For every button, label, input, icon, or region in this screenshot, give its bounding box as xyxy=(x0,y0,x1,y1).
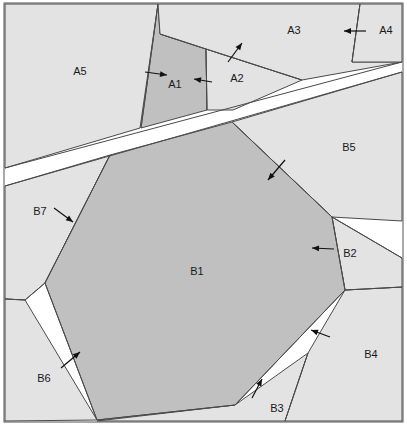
region-label-b7: B7 xyxy=(33,205,46,217)
region-label-a1: A1 xyxy=(168,78,181,90)
region-label-a5: A5 xyxy=(73,65,86,77)
region-label-a2: A2 xyxy=(230,72,243,84)
region-label-b4: B4 xyxy=(364,348,377,360)
polygon-partition-diagram: A5A1A2A3A4B5B7B6B3B4B2B1 xyxy=(0,0,407,425)
region-label-b1: B1 xyxy=(190,265,203,277)
region-label-b2: B2 xyxy=(343,247,356,259)
region-label-b5: B5 xyxy=(342,141,355,153)
region-a4 xyxy=(352,4,402,62)
region-label-a3: A3 xyxy=(287,24,300,36)
figure-container: A5A1A2A3A4B5B7B6B3B4B2B1 xyxy=(0,0,407,425)
region-label-b6: B6 xyxy=(37,372,50,384)
region-label-b3: B3 xyxy=(270,402,283,414)
region-label-a4: A4 xyxy=(379,24,392,36)
